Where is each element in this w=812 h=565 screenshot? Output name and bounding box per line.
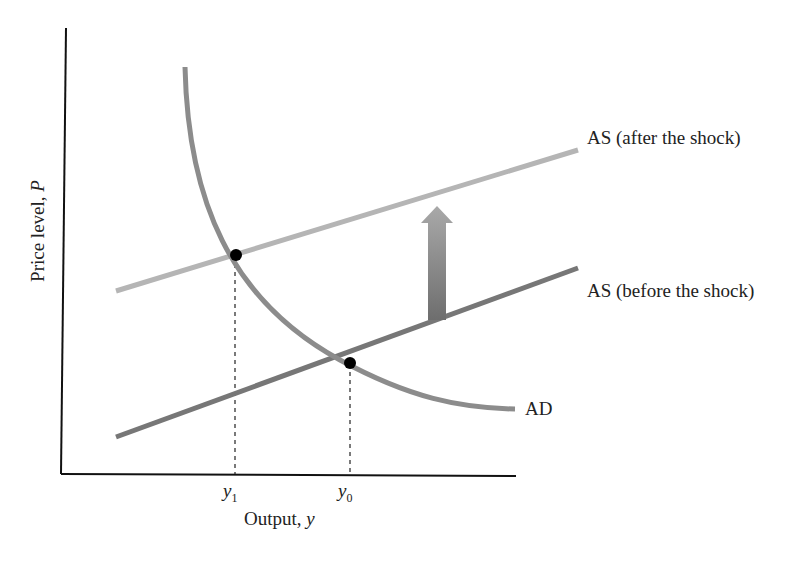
x-axis-label: Output, y xyxy=(244,508,315,530)
y-axis xyxy=(61,28,66,474)
as-before-label: AS (before the shock) xyxy=(587,280,754,302)
as-after-label: AS (after the shock) xyxy=(587,127,741,149)
as-after-curve xyxy=(116,150,578,291)
tick-y1: y1 xyxy=(223,480,237,506)
x-axis-variable: y xyxy=(306,508,314,529)
axes xyxy=(61,28,516,476)
tick-y0-sub: 0 xyxy=(346,491,352,505)
shift-arrow-icon xyxy=(421,206,453,320)
x-axis-label-text: Output, xyxy=(244,508,306,529)
equilibrium-point-after xyxy=(230,249,242,261)
as-before-curve xyxy=(116,268,578,437)
tick-y1-sub: 1 xyxy=(231,491,237,505)
y-axis-variable: P xyxy=(27,180,48,192)
y-axis-label-text: Price level, xyxy=(27,192,48,282)
ad-label: AD xyxy=(525,398,552,420)
x-axis xyxy=(61,474,516,476)
tick-y0: y0 xyxy=(338,480,352,506)
equilibrium-point-before xyxy=(344,357,356,369)
y-axis-label: Price level, P xyxy=(27,171,49,291)
